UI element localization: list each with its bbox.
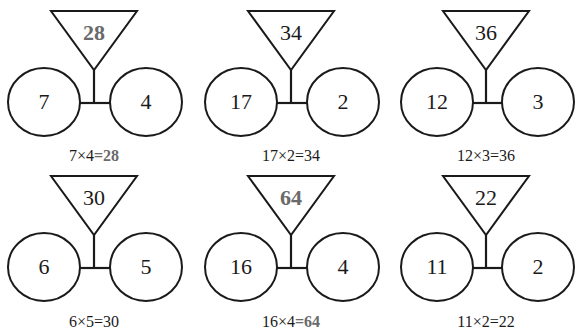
equation-rhs: =22 — [490, 313, 515, 330]
equation-caption: 6×5=30 — [69, 314, 119, 330]
equation-lhs: 7×4 — [69, 147, 94, 164]
equation-rhs: =64 — [295, 313, 320, 330]
equation-caption: 16×4=64 — [262, 314, 320, 330]
left-factor-value: 11 — [426, 256, 447, 278]
equation-rhs: =36 — [490, 147, 515, 164]
puzzle-grid: 28 7 4 7×4=28 34 17 2 17×2=34 36 12 — [0, 0, 576, 331]
right-factor-value: 2 — [338, 91, 349, 113]
equation-lhs: 12×3 — [457, 147, 490, 164]
product-value: 34 — [280, 22, 302, 44]
puzzle-3: 36 12 3 12×3=36 — [393, 0, 576, 165]
equation-caption: 17×2=34 — [262, 148, 320, 164]
product-value: 22 — [475, 187, 497, 209]
equation-caption: 11×2=22 — [457, 314, 514, 330]
left-factor-value: 6 — [39, 256, 50, 278]
equation-caption: 12×3=36 — [457, 148, 515, 164]
product-value: 64 — [280, 187, 302, 209]
left-factor-value: 16 — [230, 256, 252, 278]
right-factor-value: 5 — [141, 256, 152, 278]
puzzle-6: 22 11 2 11×2=22 — [393, 165, 576, 330]
equation-lhs: 11×2 — [457, 313, 489, 330]
puzzle-4: 30 6 5 6×5=30 — [0, 165, 190, 330]
product-value: 36 — [475, 22, 497, 44]
left-factor-value: 12 — [426, 91, 448, 113]
equation-lhs: 17×2 — [262, 147, 295, 164]
product-value: 30 — [83, 187, 105, 209]
puzzle-5: 64 16 4 16×4=64 — [197, 165, 387, 330]
right-factor-value: 4 — [338, 256, 349, 278]
puzzle-1: 28 7 4 7×4=28 — [0, 0, 190, 165]
equation-rhs: =28 — [94, 147, 119, 164]
equation-caption: 7×4=28 — [69, 148, 119, 164]
equation-lhs: 6×5 — [69, 313, 94, 330]
equation-rhs: =34 — [295, 147, 320, 164]
equation-rhs: =30 — [94, 313, 119, 330]
right-factor-value: 2 — [533, 256, 544, 278]
puzzle-2: 34 17 2 17×2=34 — [197, 0, 387, 165]
left-factor-value: 7 — [39, 91, 50, 113]
right-factor-value: 3 — [533, 91, 544, 113]
right-factor-value: 4 — [141, 91, 152, 113]
left-factor-value: 17 — [230, 91, 252, 113]
product-value: 28 — [83, 22, 105, 44]
equation-lhs: 16×4 — [262, 313, 295, 330]
